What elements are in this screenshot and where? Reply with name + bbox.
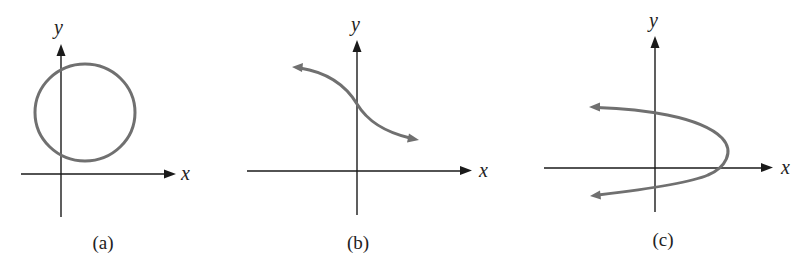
panel-a: x y (a) <box>21 16 190 254</box>
relations-figure: x y (a) x y (b) x y (c) <box>0 0 811 267</box>
curve-upper-arrow-icon <box>589 103 600 112</box>
y-axis-arrow-icon <box>651 36 660 48</box>
panel-label-a: (a) <box>92 232 113 254</box>
circle-curve <box>35 64 135 161</box>
panel-b: x y (b) <box>247 13 488 254</box>
y-axis-label-c: y <box>647 9 658 32</box>
x-axis-label-b: x <box>478 159 488 181</box>
x-axis-arrow-icon <box>460 166 472 175</box>
s-curve <box>300 68 410 138</box>
curve-lower-arrow-icon <box>590 191 601 200</box>
y-axis-arrow-icon <box>353 40 362 52</box>
panel-label-c: (c) <box>652 229 673 251</box>
x-axis-arrow-icon <box>761 163 773 172</box>
parabola-curve <box>597 108 728 196</box>
x-axis-label-a: x <box>180 162 190 184</box>
y-axis-arrow-icon <box>57 44 66 56</box>
y-axis-label-a: y <box>52 16 63 39</box>
curve-right-arrow-icon <box>407 134 419 143</box>
x-axis-label-c: x <box>780 156 790 178</box>
panel-c: x y (c) <box>544 9 790 251</box>
curve-left-arrow-icon <box>292 63 303 72</box>
x-axis-arrow-icon <box>164 170 176 179</box>
panel-label-b: (b) <box>347 232 369 254</box>
y-axis-label-b: y <box>349 13 360 36</box>
